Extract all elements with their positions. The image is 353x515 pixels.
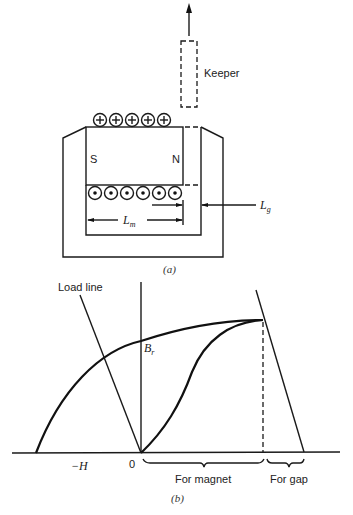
keeper-outline <box>181 41 197 107</box>
bottom-conductors <box>89 187 182 200</box>
keeper-arrow-head <box>186 3 192 13</box>
load-line-label: Load line <box>58 281 103 293</box>
h-axis <box>12 452 340 453</box>
recoil-curve <box>141 320 263 453</box>
permanent-magnet <box>86 127 183 185</box>
magnet-diagram: Keeper S N Lm L <box>0 0 353 515</box>
br-label: Br <box>144 341 155 357</box>
for-gap-label: For gap <box>270 473 308 485</box>
top-conductors <box>94 114 171 127</box>
demagnetization-curve <box>36 320 263 453</box>
caption-a: (a) <box>163 263 176 276</box>
for-magnet-label: For magnet <box>175 473 231 485</box>
pole-s-label: S <box>90 153 97 165</box>
magnet-brace <box>143 459 264 467</box>
pole-n-label: N <box>172 153 180 165</box>
keeper <box>181 3 197 107</box>
neg-h-label: −H <box>71 459 89 473</box>
gap-brace <box>267 459 304 467</box>
keeper-label: Keeper <box>204 67 240 79</box>
lg-label: Lg <box>259 198 271 214</box>
origin-label: 0 <box>129 458 135 470</box>
load-line <box>80 295 141 453</box>
lm-label: Lm <box>122 213 136 229</box>
caption-b: (b) <box>171 492 184 505</box>
dimension-lg <box>201 203 256 207</box>
